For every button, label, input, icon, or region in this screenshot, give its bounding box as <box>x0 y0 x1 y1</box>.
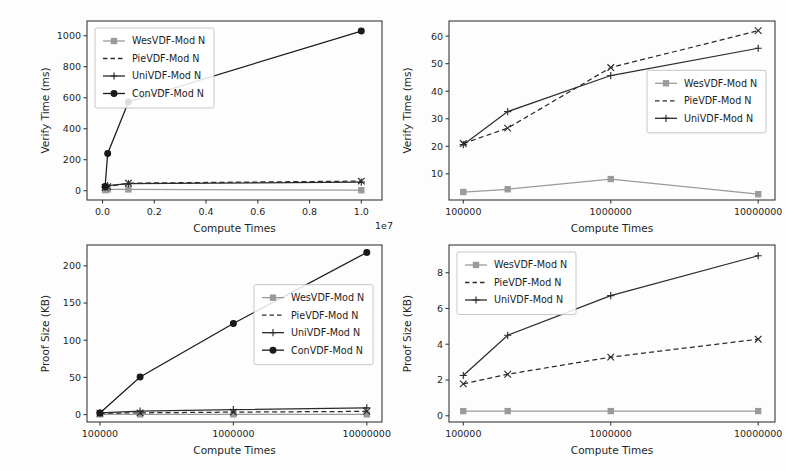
x-tick-label: 100000 <box>445 428 481 439</box>
legend-item-label: WesVDF-Mod N <box>684 78 757 89</box>
legend-item-label: WesVDF-Mod N <box>132 35 205 46</box>
y-tick-label: 6 <box>437 303 443 314</box>
y-tick-label: 150 <box>63 297 81 308</box>
legend-item-label: ConVDF-Mod N <box>132 88 204 99</box>
legend-item-label: WesVDF-Mod N <box>494 259 567 270</box>
y-axis-title: Verify Time (ms) <box>39 67 51 153</box>
x-tick-label: 1000000 <box>590 428 632 439</box>
y-tick-label: 60 <box>431 31 443 42</box>
data-marker-circle <box>364 250 370 256</box>
x-tick-label: 0.0 <box>95 206 110 217</box>
y-tick-label: 600 <box>63 92 81 103</box>
legend: WesVDF-Mod NPieVDF-Mod NUniVDF-Mod NConV… <box>95 28 214 108</box>
y-tick-label: 1000 <box>57 30 81 41</box>
data-marker-square <box>505 408 510 413</box>
legend-item-label: UniVDF-Mod N <box>132 70 201 81</box>
y-tick-label: 2 <box>437 374 443 385</box>
panel-bottom-left: 100000100000010000000Compute Times050100… <box>0 236 393 471</box>
plot-area-proof-size-small: 100000100000010000000Compute Times02468P… <box>401 245 782 456</box>
data-marker-square <box>359 188 364 193</box>
x-tick-label: 100000 <box>82 428 118 439</box>
y-tick-label: 4 <box>437 339 443 350</box>
data-marker-square <box>608 408 613 413</box>
series-line <box>105 182 361 187</box>
data-marker-square <box>756 192 761 197</box>
chart-verify-time-linear: 0.00.20.40.60.81.0Compute Times1e7020040… <box>0 0 393 236</box>
x-tick-label: 0.6 <box>250 206 265 217</box>
data-marker-square <box>608 176 613 181</box>
legend-item-label: UniVDF-Mod N <box>684 113 753 124</box>
legend: WesVDF-Mod NPieVDF-Mod NUniVDF-Mod NConV… <box>254 285 373 365</box>
legend-item-label: PieVDF-Mod N <box>494 277 562 288</box>
data-marker-x <box>504 125 511 132</box>
data-marker-circle <box>105 151 111 157</box>
legend: WesVDF-Mod NPieVDF-Mod NUniVDF-Mod N <box>457 252 576 315</box>
legend-item-label: WesVDF-Mod N <box>291 292 364 303</box>
data-marker-plus <box>363 404 370 411</box>
x-tick-label: 0.8 <box>302 206 317 217</box>
legend-item-label: PieVDF-Mod N <box>291 310 359 321</box>
y-tick-label: 200 <box>63 260 81 271</box>
panel-top-right: 100000100000010000000Compute Times102030… <box>393 0 786 236</box>
legend-item-label: PieVDF-Mod N <box>684 95 752 106</box>
data-marker-square <box>473 262 478 267</box>
data-marker-circle <box>97 410 103 416</box>
x-axis-title: Compute Times <box>571 444 653 456</box>
chart-proof-size-small: 100000100000010000000Compute Times02468P… <box>393 236 786 471</box>
y-tick-label: 30 <box>431 113 443 124</box>
plot-area-verify-time-log: 100000100000010000000Compute Times102030… <box>401 21 782 234</box>
figure-canvas: 0.00.20.40.60.81.0Compute Times1e7020040… <box>0 0 786 471</box>
y-tick-label: 200 <box>63 154 81 165</box>
plot-area-verify-time-linear: 0.00.20.40.60.81.0Compute Times1e7020040… <box>39 21 393 234</box>
x-tick-label: 0.2 <box>147 206 162 217</box>
data-marker-circle <box>358 28 364 34</box>
x-axis: 100000100000010000000 <box>445 200 782 217</box>
y-tick-label: 50 <box>69 372 81 383</box>
x-axis: 0.00.20.40.60.81.0 <box>95 200 369 217</box>
x-tick-label: 10000000 <box>343 428 391 439</box>
data-marker-circle <box>230 321 236 327</box>
x-axis-exponent: 1e7 <box>375 220 393 231</box>
y-tick-label: 20 <box>431 141 443 152</box>
y-tick-label: 10 <box>431 168 443 179</box>
series-line <box>105 189 361 190</box>
y-axis: 102030405060 <box>431 31 449 180</box>
y-tick-label: 0 <box>437 410 443 421</box>
x-axis: 100000100000010000000 <box>445 422 782 439</box>
x-axis-title: Compute Times <box>193 222 275 234</box>
x-tick-label: 1000000 <box>590 206 632 217</box>
chart-verify-time-log: 100000100000010000000Compute Times102030… <box>393 0 786 236</box>
x-tick-label: 100000 <box>445 206 481 217</box>
panel-top-left: 0.00.20.40.60.81.0Compute Times1e7020040… <box>0 0 393 236</box>
legend: WesVDF-Mod NPieVDF-Mod NUniVDF-Mod N <box>647 70 766 133</box>
x-axis-title: Compute Times <box>193 444 275 456</box>
series-line <box>463 339 758 384</box>
plot-area-proof-size-large: 100000100000010000000Compute Times050100… <box>39 245 391 456</box>
data-marker-plus <box>755 45 762 52</box>
legend-item-label: UniVDF-Mod N <box>291 327 360 338</box>
data-marker-square <box>461 408 466 413</box>
legend-item-label: ConVDF-Mod N <box>291 345 363 356</box>
y-tick-label: 0 <box>75 409 81 420</box>
data-marker-circle <box>102 184 108 190</box>
y-tick-label: 40 <box>431 86 443 97</box>
series-markers <box>102 178 365 191</box>
data-marker-plus <box>607 292 614 299</box>
data-marker-square <box>126 187 131 192</box>
series-markers <box>460 336 762 387</box>
data-marker-circle <box>111 91 117 97</box>
data-marker-circle <box>270 347 276 353</box>
y-tick-label: 800 <box>63 61 81 72</box>
y-axis-title: Proof Size (KB) <box>39 295 51 372</box>
x-tick-label: 10000000 <box>734 428 782 439</box>
legend-item-label: UniVDF-Mod N <box>494 294 563 305</box>
data-marker-square <box>111 38 116 43</box>
data-marker-square <box>270 295 275 300</box>
x-tick-label: 1000000 <box>212 428 254 439</box>
legend-item-label: PieVDF-Mod N <box>132 53 200 64</box>
x-tick-label: 1.0 <box>354 206 369 217</box>
data-marker-plus <box>358 179 365 186</box>
x-axis-title: Compute Times <box>571 222 653 234</box>
y-axis: 02468 <box>437 267 449 421</box>
x-tick-label: 0.4 <box>198 206 213 217</box>
